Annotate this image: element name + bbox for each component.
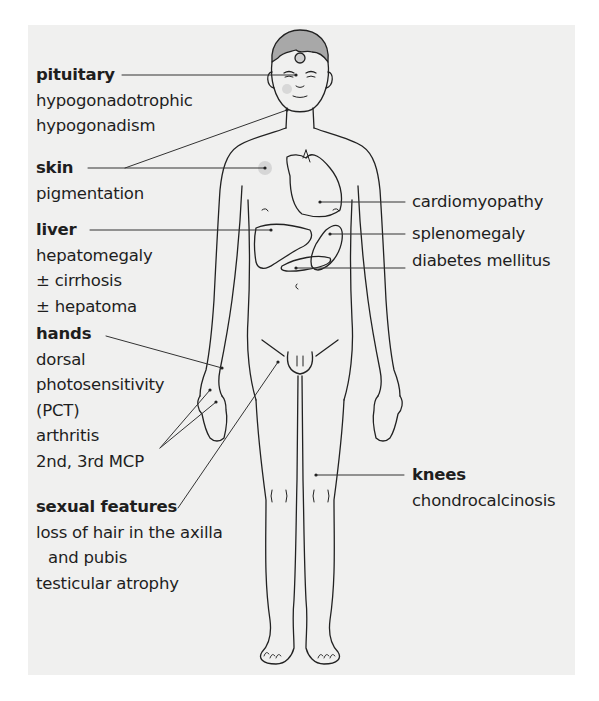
label-pituitary: pituitary hypogonadotrophic hypogonadism <box>36 62 193 139</box>
label-sexual-features: sexual features loss of hair in the axil… <box>36 494 223 596</box>
hands-line: arthritis <box>36 423 164 449</box>
label-splenomegaly: splenomegaly <box>412 221 525 247</box>
skin-title: skin <box>36 155 144 181</box>
sexual-features-line: loss of hair in the axilla <box>36 520 223 546</box>
spleen-organ <box>311 225 342 270</box>
liver-line: ± hepatoma <box>36 294 153 320</box>
label-cardiomyopathy: cardiomyopathy <box>412 189 543 215</box>
pituitary-title: pituitary <box>36 62 193 88</box>
genitals <box>288 352 313 374</box>
liver-line: hepatomegaly <box>36 243 153 269</box>
hands-line: photosensitivity <box>36 372 164 398</box>
pituitary-marker <box>295 53 305 63</box>
liver-title: liver <box>36 217 153 243</box>
pituitary-line: hypogonadism <box>36 113 193 139</box>
liver-line: ± cirrhosis <box>36 268 153 294</box>
knees-line: chondrocalcinosis <box>412 488 555 514</box>
liver-organ <box>255 224 312 268</box>
knees-title: knees <box>412 462 555 488</box>
left-hand <box>198 396 227 441</box>
hands-title: hands <box>36 321 164 347</box>
label-diabetes-mellitus: diabetes mellitus <box>412 248 550 274</box>
hands-line: 2nd, 3rd MCP <box>36 449 164 475</box>
label-hands: hands dorsal photosensitivity (PCT) arth… <box>36 321 164 474</box>
head-outline <box>272 62 329 112</box>
hands-line: (PCT) <box>36 398 164 424</box>
right-hand <box>373 396 402 441</box>
sexual-features-line: and pubis <box>36 545 223 571</box>
label-skin: skin pigmentation <box>36 155 144 206</box>
sexual-features-title: sexual features <box>36 494 223 520</box>
skin-line: pigmentation <box>36 181 144 207</box>
sexual-features-line: testicular atrophy <box>36 571 223 597</box>
label-knees: knees chondrocalcinosis <box>412 462 555 513</box>
pituitary-line: hypogonadotrophic <box>36 88 193 114</box>
label-liver: liver hepatomegaly ± cirrhosis ± hepatom… <box>36 217 153 319</box>
heart-organ <box>287 155 342 217</box>
hands-line: dorsal <box>36 347 164 373</box>
